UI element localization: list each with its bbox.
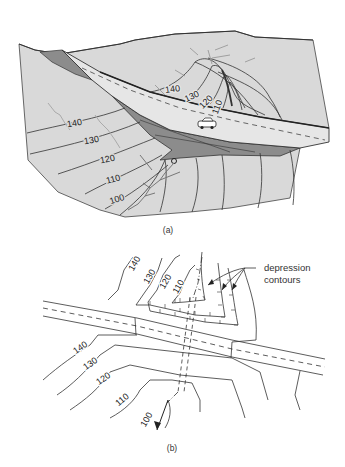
panel-a-terrain-illustration: 140130120110140130120110100 (a)	[19, 31, 329, 235]
depression-annotation-line2: contours	[264, 274, 301, 285]
channel-centerline	[193, 257, 202, 298]
panel-b-caption: (b)	[167, 443, 178, 453]
depression-annotation-line1: depression	[264, 262, 310, 273]
panel-a-caption: (a)	[163, 225, 174, 235]
panel-b-contour-map: depression contours 14013012011014013012…	[43, 252, 325, 453]
contour-label-110: 110	[170, 278, 186, 295]
highway-culvert-contour-figure: 140130120110140130120110100 (a)	[0, 0, 345, 467]
contour-label-140: 140	[126, 254, 142, 272]
contour-label-130: 130	[141, 267, 157, 285]
contour-label-100: 100	[138, 410, 154, 428]
contour-label-130: 130	[81, 355, 99, 372]
contour-label-140: 140	[71, 339, 89, 356]
contour-label-140: 140	[164, 83, 180, 95]
